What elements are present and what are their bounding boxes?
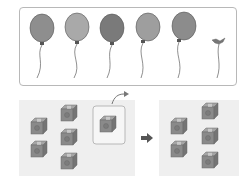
cube-icon (171, 141, 187, 157)
cube-icon (61, 153, 77, 169)
curved-arrow-head-icon (124, 91, 129, 97)
balloon-1-icon (30, 14, 54, 78)
cube-icon (31, 141, 47, 157)
cube-icon (61, 105, 77, 121)
cube-icon (202, 152, 218, 168)
highlighted-cube-icon (100, 116, 116, 132)
curved-arrow-icon (112, 94, 124, 104)
cube-icon (202, 103, 218, 119)
cube-icon (202, 128, 218, 144)
cube-icon (171, 118, 187, 134)
cube-icon (31, 118, 47, 134)
balloon-2-icon (65, 13, 89, 78)
balloon-5-icon (172, 12, 196, 78)
right-arrow-icon (141, 133, 153, 143)
illustration-svg (0, 0, 246, 184)
popped-balloon-icon (212, 38, 225, 78)
cube-icon (61, 129, 77, 145)
balloon-3-icon (100, 14, 124, 78)
balloon-4-icon (136, 13, 160, 78)
